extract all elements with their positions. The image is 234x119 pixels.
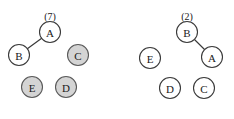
graph-node-d[interactable]: D [160,78,181,99]
graph-node-c[interactable]: C [194,78,215,99]
right-panel: (2)BAEDC [140,11,223,99]
graph-node-b[interactable]: B [177,22,198,43]
node-label-a: A [208,52,216,64]
node-label-c: C [74,50,81,62]
graph-node-a[interactable]: A [202,47,223,68]
graph-node-e[interactable]: E [22,77,43,98]
graph-figure-container: (7)ABCED(2)BAEDC [0,0,234,119]
graph-node-a[interactable]: A [40,22,61,43]
node-label-e: E [29,82,36,94]
node-label-c: C [200,83,207,95]
left-panel: (7)ABCED [9,11,89,98]
node-label-a: A [46,27,54,39]
node-label-d: D [62,82,70,94]
graph-node-c[interactable]: C [68,45,89,66]
graph-node-b[interactable]: B [9,45,30,66]
tree-edge-a-b [27,38,43,50]
node-label-b: B [15,50,22,62]
tree-count-label: (7) [44,11,56,23]
graph-canvas: (7)ABCED(2)BAEDC [0,0,234,119]
tree-edge-b-a [194,39,206,51]
node-label-b: B [183,27,190,39]
tree-count-label: (2) [181,11,193,23]
graph-node-e[interactable]: E [140,48,161,69]
node-label-e: E [147,53,154,65]
node-label-d: D [166,83,174,95]
graph-node-d[interactable]: D [56,77,77,98]
